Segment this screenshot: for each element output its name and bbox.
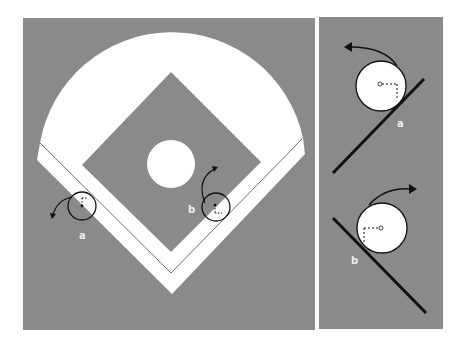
label-b: b: [188, 204, 195, 215]
label-a: a: [79, 230, 86, 241]
label-right-b: b: [351, 255, 358, 266]
label-right-a: a: [397, 118, 404, 129]
left-panel: a b: [23, 18, 315, 330]
pitchers-mound: [147, 140, 195, 188]
diagram: a b a b: [0, 0, 463, 344]
right-panel: a b: [319, 17, 443, 329]
